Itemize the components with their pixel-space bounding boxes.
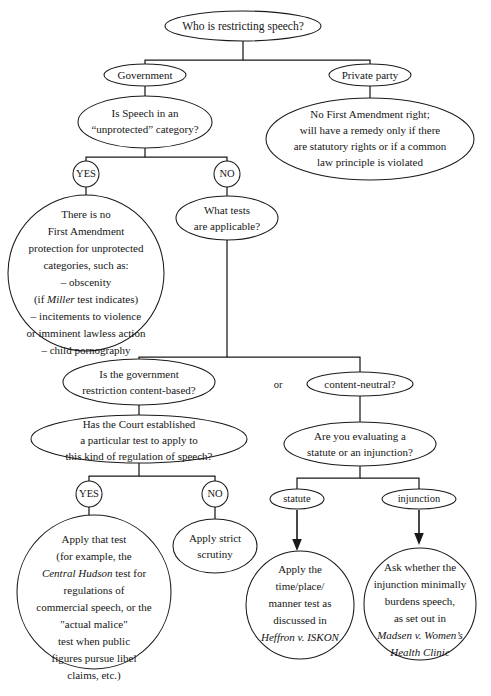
edge-court-to-no2 — [139, 476, 215, 483]
node-time-place-manner[interactable]: Apply the time/place/ manner test as dis… — [246, 551, 354, 659]
flowchart-canvas: Who is restricting speech? Government Pr… — [0, 0, 491, 696]
node-label-line2: will have a remedy only if there — [300, 124, 441, 136]
node-content-based[interactable]: Is the government restriction content-ba… — [63, 359, 215, 405]
node-label-line2: restriction content-based? — [82, 384, 195, 396]
node-label-line7: test when public — [58, 635, 130, 647]
node-label-line1: Has the Court established — [83, 418, 196, 430]
node-label: Who is restricting speech? — [182, 20, 304, 33]
node-root-question[interactable]: Who is restricting speech? — [165, 11, 321, 41]
node-label-line1: There is no — [61, 208, 111, 220]
node-label-line3: are statutory rights or if a common — [294, 140, 447, 152]
node-label-line1: What tests — [204, 204, 250, 216]
node-label-line1: Is the government — [99, 368, 178, 380]
node-label: statute — [283, 493, 311, 504]
node-statute[interactable]: statute — [270, 489, 324, 509]
node-label-line8: or imminent lawless action — [27, 327, 146, 339]
node-label-line3: protection for unprotected — [29, 242, 144, 254]
node-label-line2: injunction minimally — [374, 578, 467, 590]
node-label-line1: Ask whether the — [384, 561, 456, 573]
node-content-neutral[interactable]: content-neutral? — [307, 372, 413, 396]
np-l6-a: (if — [34, 293, 47, 306]
edge-evaluating-to-injunction — [360, 478, 419, 489]
node-label-line1: No First Amendment right; — [310, 108, 429, 120]
att-l3-b: test for — [112, 567, 146, 579]
node-apply-that-test[interactable]: Apply that test (for example, the Centra… — [17, 515, 171, 682]
node-label-line3: manner test as — [269, 597, 332, 609]
node-label-line2: statute or an injunction? — [307, 446, 413, 458]
node-no-1[interactable]: NO — [214, 161, 240, 187]
node-label-line2: a particular test to apply to — [80, 434, 198, 446]
node-madsen[interactable]: Ask whether the injunction minimally bur… — [364, 548, 476, 660]
node-court-established[interactable]: Has the Court established a particular t… — [31, 415, 247, 463]
edge-unprotected-to-yes — [86, 148, 145, 163]
node-label: Private party — [342, 69, 399, 81]
node-label-line1: Apply that test — [62, 533, 127, 545]
edge-what-tests-to-content-neutral — [227, 357, 360, 372]
node-label-line6: (if Miller test indicates) — [34, 293, 139, 306]
connector-or-label: or — [274, 379, 283, 390]
node-label: NO — [219, 168, 235, 179]
node-what-tests[interactable]: What tests are applicable? — [176, 196, 278, 240]
node-label-line7: – incitements to violence — [30, 310, 141, 322]
node-label-line3: Central Hudson test for — [42, 567, 147, 579]
node-no-protection[interactable]: There is no First Amendment protection f… — [8, 195, 164, 356]
node-label-line5: commercial speech, or the — [36, 601, 152, 613]
edge-unprotected-to-no — [145, 157, 227, 163]
node-strict-scrutiny[interactable]: Apply strict scrutiny — [173, 519, 257, 573]
node-government[interactable]: Government — [104, 64, 186, 86]
node-label-line5: Heffron v. ISKON — [260, 631, 340, 643]
node-label: YES — [79, 488, 99, 499]
edge-court-to-yes2 — [89, 462, 139, 483]
edge-root-to-private-party — [243, 60, 370, 65]
node-label-line4: as set out in — [394, 612, 447, 624]
node-label: NO — [207, 488, 223, 499]
node-label-line2: First Amendment — [48, 225, 125, 237]
node-label-line2: are applicable? — [194, 220, 260, 232]
node-yes-1[interactable]: YES — [73, 161, 99, 187]
node-shape — [173, 519, 257, 573]
node-label: injunction — [398, 493, 441, 504]
np-l6-italic: Miller — [46, 293, 75, 305]
node-label-line2: “unprotected” category? — [91, 123, 198, 135]
node-label-line1: Apply strict — [189, 532, 241, 544]
arrowhead-injunction — [414, 533, 424, 545]
node-label-line4: discussed in — [273, 614, 327, 626]
node-label-line1: Is Speech in an — [112, 107, 179, 119]
node-label-line5: Madsen v. Women’s — [376, 629, 463, 641]
node-no-2[interactable]: NO — [202, 481, 228, 507]
node-private-outcome[interactable]: No First Amendment right; will have a re… — [266, 98, 474, 180]
np-l6-b: test indicates) — [75, 293, 139, 306]
node-evaluating[interactable]: Are you evaluating a statute or an injun… — [284, 422, 436, 466]
node-label-line9: claims, etc.) — [67, 669, 121, 682]
node-label-line6: "actual malice" — [60, 618, 127, 630]
node-label-line2: (for example, the — [56, 550, 132, 563]
node-yes-2[interactable]: YES — [76, 481, 102, 507]
node-unprotected-question[interactable]: Is Speech in an “unprotected” category? — [78, 96, 212, 148]
att-l3-italic: Central Hudson — [42, 567, 113, 579]
node-injunction[interactable]: injunction — [382, 489, 456, 509]
node-label-line9: – child pornography — [40, 344, 131, 356]
node-shape — [63, 359, 215, 405]
node-label-line3: burdens speech, — [385, 595, 456, 607]
node-label: Government — [118, 69, 173, 81]
node-label: YES — [76, 168, 96, 179]
node-label-line2: scrutiny — [197, 548, 233, 560]
node-label-line4: regulations of — [64, 584, 125, 596]
node-private-party[interactable]: Private party — [329, 64, 411, 86]
node-label-line1: Apply the — [278, 563, 322, 575]
node-label-line8: figures pursue libel — [52, 652, 137, 664]
flowchart-svg: Who is restricting speech? Government Pr… — [0, 0, 491, 696]
node-label-line1: Are you evaluating a — [314, 430, 406, 442]
node-label-line2: time/place/ — [276, 580, 326, 592]
node-label: content-neutral? — [324, 378, 396, 390]
node-label-line5: – obscenity — [60, 276, 112, 288]
node-label-line4: law principle is violated — [317, 156, 423, 168]
node-label-line3: this kind of regulation of speech? — [66, 450, 213, 462]
arrowhead-statute — [292, 539, 302, 551]
node-label-line4: categories, such as: — [43, 259, 128, 271]
node-label-line6: Health Clinic — [389, 646, 450, 658]
edge-root-to-government — [145, 41, 243, 65]
